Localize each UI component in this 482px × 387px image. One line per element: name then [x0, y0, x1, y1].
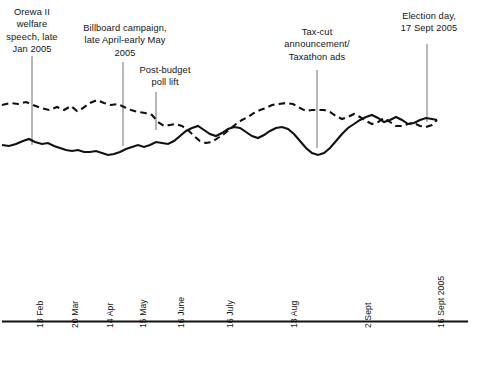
annotation-tax-cut: Tax-cut announcement/ Taxathon ads: [256, 26, 378, 63]
series-line-solid: [2, 115, 437, 155]
x-tick-label-3: 15 May: [138, 299, 148, 328]
x-tick-label-0: 13 Feb: [35, 301, 45, 328]
x-tick-label-7: 2 Sept: [363, 303, 373, 328]
series-line-dashed: [2, 100, 437, 143]
annotation-billboard-campaign: Billboard campaign, late April-early May…: [59, 22, 191, 59]
x-tick-label-1: 20 Mar: [70, 301, 80, 328]
x-tick-label-2: 14 Apr: [105, 303, 115, 328]
annotation-election-day: Election day, 17 Sept 2005: [381, 10, 477, 35]
annotation-post-budget-poll-lift: Post-budget poll lift: [124, 64, 206, 89]
x-tick-label-8: 16 Sept 2005: [436, 276, 446, 328]
x-tick-label-5: 16 July: [225, 300, 235, 328]
poll-trend-chart: Orewa II welfare speech, late Jan 2005 B…: [0, 0, 482, 387]
x-tick-label-4: 16 June: [176, 297, 186, 328]
x-tick-label-6: 13 Aug: [289, 301, 299, 328]
